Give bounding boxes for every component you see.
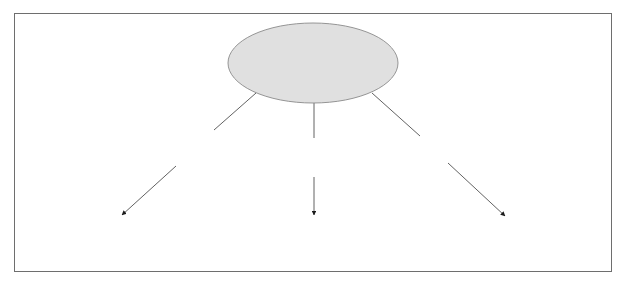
diagram-canvas bbox=[0, 0, 637, 283]
edge-root-to-label-1 bbox=[214, 93, 256, 130]
edge-label-3-to-node-3 bbox=[448, 163, 505, 216]
edge-root-to-label-3 bbox=[372, 93, 420, 136]
edge-label-1-to-node-1 bbox=[122, 166, 176, 215]
root-node bbox=[0, 0, 398, 103]
